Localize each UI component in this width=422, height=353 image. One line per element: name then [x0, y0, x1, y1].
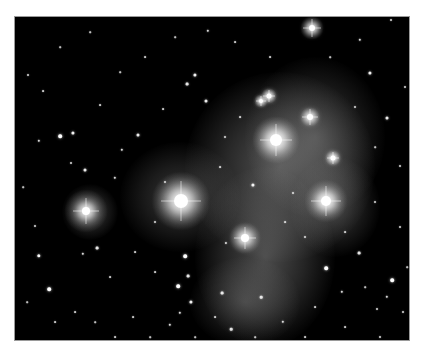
star: [368, 71, 371, 74]
star: [230, 328, 233, 331]
bright-star: [174, 194, 188, 208]
star: [54, 321, 56, 323]
star: [329, 56, 331, 58]
star: [193, 73, 196, 76]
star: [344, 231, 346, 233]
star: [390, 278, 394, 282]
star: [42, 90, 44, 92]
star: [234, 41, 236, 43]
star: [406, 266, 408, 268]
star: [314, 306, 316, 308]
star: [376, 308, 378, 310]
star: [174, 36, 176, 38]
star: [149, 336, 151, 338]
star: [284, 221, 286, 223]
star: [194, 336, 196, 338]
star: [354, 106, 356, 108]
star: [269, 56, 271, 58]
star: [82, 253, 84, 255]
star: [207, 30, 209, 32]
star: [37, 254, 40, 257]
star: [341, 291, 343, 293]
star: [358, 252, 361, 255]
star: [27, 74, 29, 76]
star: [183, 254, 187, 258]
star: [71, 131, 74, 134]
bright-star: [331, 156, 336, 161]
bright-star: [241, 234, 249, 242]
star: [38, 140, 40, 142]
star: [404, 86, 406, 88]
star: [254, 336, 256, 338]
star: [251, 183, 254, 186]
star: [282, 321, 284, 323]
star-field: [15, 17, 409, 340]
star: [132, 316, 134, 318]
nebula-glow: [190, 257, 300, 341]
star: [94, 321, 96, 323]
star: [205, 100, 208, 103]
star: [187, 275, 190, 278]
star: [74, 311, 76, 313]
bright-star: [270, 134, 282, 146]
star: [292, 192, 294, 194]
nebula-glow: [185, 72, 375, 262]
star: [364, 286, 366, 288]
star: [324, 266, 328, 270]
star: [374, 201, 376, 203]
star: [260, 296, 263, 299]
star: [224, 136, 226, 138]
star: [304, 236, 306, 238]
star: [154, 221, 156, 223]
star: [70, 162, 72, 164]
star: [134, 251, 136, 253]
star: [58, 134, 62, 138]
bright-star: [321, 196, 331, 206]
star: [137, 134, 140, 137]
star: [359, 39, 361, 41]
star: [214, 316, 216, 318]
star: [179, 312, 181, 314]
star: [47, 287, 51, 291]
star: [121, 149, 123, 151]
bright-star: [82, 207, 90, 215]
star: [176, 284, 180, 288]
star: [386, 296, 388, 298]
star: [390, 19, 392, 21]
star: [225, 242, 227, 244]
star: [186, 83, 189, 86]
star: [99, 104, 101, 106]
star: [304, 336, 306, 338]
star: [26, 301, 28, 303]
star: [34, 225, 36, 227]
star: [219, 166, 221, 168]
bright-star: [259, 99, 263, 103]
star: [144, 56, 146, 58]
star: [399, 165, 401, 167]
star: [119, 71, 121, 73]
star: [59, 46, 61, 48]
star: [114, 336, 116, 338]
astronomy-image: Pleiades star cluster with reflection ne…: [14, 16, 410, 341]
star: [109, 276, 111, 278]
star: [162, 108, 164, 110]
star: [169, 324, 171, 326]
bright-star: [309, 25, 315, 31]
star: [154, 271, 156, 273]
star: [221, 292, 224, 295]
star: [374, 146, 376, 148]
bright-star: [307, 114, 313, 120]
star: [344, 326, 346, 328]
star: [239, 116, 241, 118]
star: [379, 336, 381, 338]
star: [402, 311, 404, 313]
star: [22, 186, 24, 188]
star: [89, 31, 91, 33]
star: [189, 300, 192, 303]
star: [96, 247, 99, 250]
star: [386, 117, 389, 120]
star: [399, 226, 401, 228]
star: [114, 177, 116, 179]
star: [84, 169, 87, 172]
